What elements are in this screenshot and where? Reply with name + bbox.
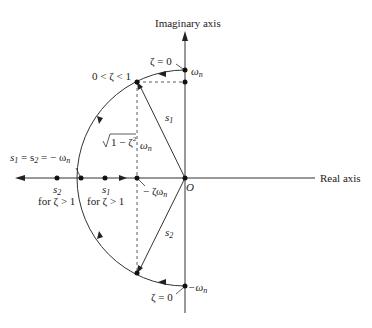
point-critical — [79, 176, 84, 181]
point-neg-zeta-omega — [135, 176, 140, 181]
point-omega-n — [183, 68, 188, 73]
omega-n-label: ωn — [191, 66, 203, 79]
neg-omega-n-label: −ωn — [188, 282, 207, 295]
neg-zeta-omega-label: − ζωn — [143, 186, 167, 199]
critical-damping-label: s1 = s2 = − ωn — [10, 152, 70, 165]
point-s1-upper — [135, 80, 140, 85]
arrow-upper-left-icon — [97, 116, 103, 124]
point-s2-real — [55, 176, 60, 181]
point-origin — [183, 176, 188, 181]
sqrt-omega-label: ωn — [140, 140, 152, 153]
point-neg-omega-n — [183, 284, 188, 289]
arrow-lower-left-icon — [97, 231, 103, 239]
vector-s1 — [140, 86, 185, 178]
point-s2-lower — [135, 271, 140, 276]
arrow-bottom-icon — [158, 279, 166, 285]
real-axis-left-arrow-icon — [15, 175, 25, 181]
real-axis-label: Real axis — [320, 173, 361, 184]
s1-real-condition: for ζ > 1 — [87, 196, 124, 207]
origin-label: O — [186, 182, 194, 193]
underdamped-label: 0 < ζ < 1 — [92, 71, 131, 82]
point-damped-freq — [183, 80, 188, 85]
zeta-zero-bottom-label: ζ = 0 — [151, 292, 173, 303]
imaginary-axis-arrow-icon — [182, 31, 188, 41]
sqrt-label: 1 − ζ2 — [111, 136, 136, 148]
zeta-zero-top-label: ζ = 0 — [150, 56, 172, 67]
imaginary-axis-label: Imaginary axis — [155, 18, 221, 29]
s2-vector-label: s2 — [165, 227, 173, 240]
arrow-top-icon — [158, 71, 166, 77]
s1-vector-label: s1 — [165, 112, 173, 125]
s2-real-condition: for ζ > 1 — [38, 196, 75, 207]
point-s1-real — [103, 176, 108, 181]
arrow-real-right-icon — [119, 175, 127, 181]
